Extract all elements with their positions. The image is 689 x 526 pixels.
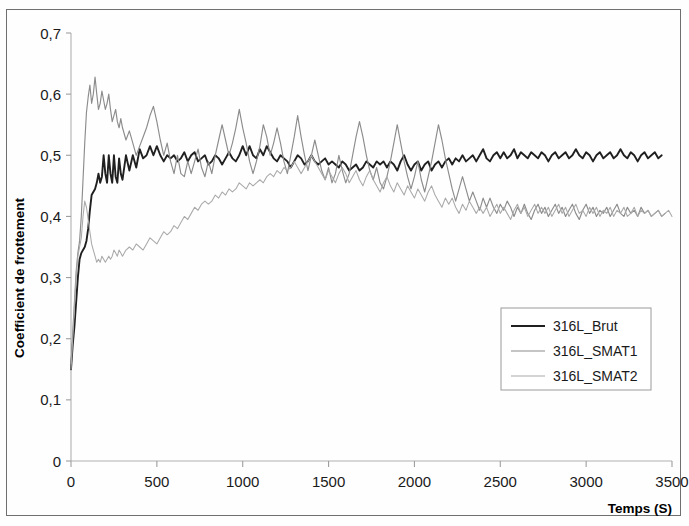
y-tick-label: 0,3: [40, 269, 61, 286]
x-tick-label: 0: [67, 473, 75, 490]
legend-label-1: 316L_SMAT1: [553, 343, 638, 359]
y-tick-label: 0,2: [40, 330, 61, 347]
x-tick-label: 2500: [484, 473, 517, 490]
x-tick-label: 1500: [312, 473, 345, 490]
chart-image: 00,10,20,30,40,50,60,7050010001500200025…: [0, 0, 689, 526]
y-tick-label: 0: [53, 453, 61, 470]
legend-label-0: 316L_Brut: [553, 318, 618, 334]
x-tick-label: 2000: [398, 473, 431, 490]
friction-coefficient-chart: 00,10,20,30,40,50,60,7050010001500200025…: [0, 0, 689, 526]
y-tick-label: 0,7: [40, 25, 61, 42]
x-tick-label: 1000: [226, 473, 259, 490]
y-tick-label: 0,5: [40, 147, 61, 164]
x-tick-label: 3500: [655, 473, 688, 490]
x-tick-label: 500: [144, 473, 169, 490]
y-tick-label: 0,4: [40, 208, 61, 225]
x-axis-title: Temps (S): [608, 501, 672, 516]
y-tick-label: 0,6: [40, 86, 61, 103]
y-tick-label: 0,1: [40, 391, 61, 408]
x-tick-label: 3000: [569, 473, 602, 490]
y-axis-title: Coefficient de frottement: [12, 198, 27, 358]
plot-svg: 00,10,20,30,40,50,60,7050010001500200025…: [0, 0, 689, 526]
legend-label-2: 316L_SMAT2: [553, 368, 638, 384]
